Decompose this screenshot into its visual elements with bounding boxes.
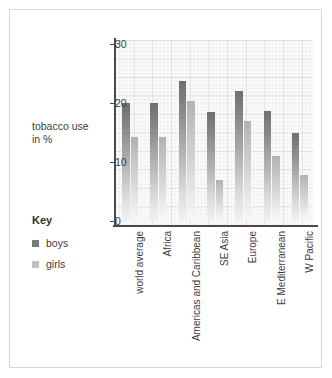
bar-girls: [272, 156, 280, 221]
bar-group: [207, 112, 223, 221]
category-label: W Pacific: [304, 231, 315, 273]
plot-wrapper: 0102030 world averageAfricaAmericas and …: [115, 34, 315, 234]
legend-item-label: girls: [46, 258, 65, 270]
legend-swatch-icon: [32, 240, 39, 247]
bar-group: [179, 81, 195, 221]
y-axis-title: tobacco use in %: [32, 120, 116, 146]
bar-boys: [292, 133, 300, 221]
chart-page-frame: tobacco use in % Key boysgirls 0102030 w…: [9, 9, 322, 368]
category-label: SE Asia: [219, 231, 230, 266]
x-axis-line: [113, 225, 318, 227]
y-axis-line: [114, 38, 116, 225]
category-label: Europe: [247, 231, 258, 263]
legend-items: boysgirls: [32, 237, 118, 270]
y-axis-title-line2: in %: [32, 133, 116, 146]
category-label: Africa: [162, 231, 173, 257]
bar-girls: [159, 137, 167, 221]
bar-girls: [300, 175, 308, 221]
category-label: world average: [134, 231, 145, 294]
bar-boys: [179, 81, 187, 221]
bar-boys: [235, 91, 243, 221]
bar-boys: [207, 112, 215, 221]
legend-swatch-icon: [32, 261, 39, 268]
bar-boys: [264, 111, 272, 221]
bar-group: [235, 91, 251, 221]
bar-group: [292, 133, 308, 221]
bar-girls: [216, 180, 224, 221]
legend-item-girls: girls: [32, 258, 118, 270]
plot-area: [115, 40, 313, 225]
bar-boys: [150, 103, 158, 221]
legend: Key boysgirls: [32, 214, 118, 279]
category-label: E Mediterranean: [276, 231, 287, 305]
bar-group: [150, 103, 166, 221]
y-axis-title-line1: tobacco use: [32, 120, 116, 133]
bar-girls: [187, 101, 195, 221]
legend-item-label: boys: [46, 237, 68, 249]
bar-group: [264, 111, 280, 221]
bar-girls: [244, 121, 252, 221]
legend-item-boys: boys: [32, 237, 118, 249]
category-label: Americas and Caribbean: [191, 231, 202, 341]
bar-girls: [131, 137, 139, 221]
legend-title: Key: [32, 214, 118, 226]
